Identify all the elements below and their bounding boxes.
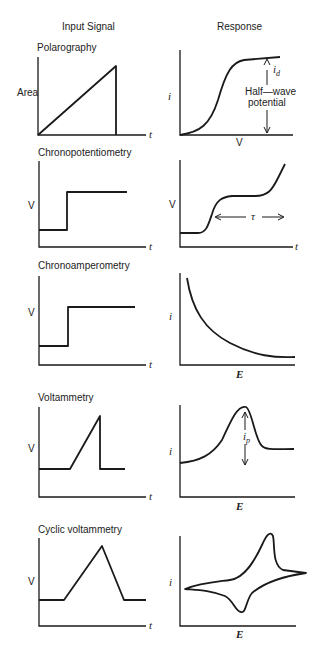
input-plot: V t bbox=[28, 276, 153, 370]
response-plot: ip i E bbox=[169, 405, 295, 512]
x-label: V bbox=[236, 137, 243, 148]
input-plot: V t bbox=[28, 538, 153, 631]
axes bbox=[180, 536, 296, 626]
axes bbox=[180, 160, 293, 247]
y-label: V bbox=[28, 443, 35, 454]
technique-title: Cyclic voltammetry bbox=[38, 524, 122, 535]
tau-label: τ bbox=[251, 210, 256, 222]
response-plot: id Half—wave potential i V bbox=[168, 50, 297, 148]
y-label: i bbox=[168, 90, 171, 102]
response-curve bbox=[180, 164, 285, 233]
half-wave-label-line2: potential bbox=[248, 97, 286, 108]
axes bbox=[39, 276, 146, 365]
row-polarography: Polarography Area t id Half—wave potenti… bbox=[17, 42, 297, 148]
technique-title: Polarography bbox=[37, 42, 96, 53]
response-curve bbox=[187, 278, 295, 357]
response-curve bbox=[185, 534, 306, 613]
input-plot: V t bbox=[28, 161, 153, 252]
x-label: t bbox=[149, 240, 153, 252]
x-label: E bbox=[235, 368, 243, 380]
response-plot: i E bbox=[169, 534, 306, 640]
axes bbox=[39, 161, 146, 247]
header-response: Response bbox=[217, 21, 262, 32]
y-label: i bbox=[169, 576, 172, 588]
arrow-head-up bbox=[264, 59, 270, 65]
id-label: id bbox=[273, 63, 281, 78]
row-chronoamperometry: Chronoamperometry V t i E bbox=[28, 260, 295, 380]
x-label: t bbox=[149, 128, 153, 140]
row-cyclic-voltammetry: Cyclic voltammetry V t i E bbox=[28, 524, 306, 640]
input-plot: V t bbox=[28, 407, 153, 502]
signal-curve bbox=[39, 416, 125, 469]
row-voltammetry: Voltammetry V t ip i E bbox=[28, 392, 295, 512]
axes bbox=[39, 407, 146, 497]
technique-title: Voltammetry bbox=[38, 392, 94, 403]
signal-curve bbox=[39, 546, 146, 600]
axes bbox=[180, 273, 295, 365]
y-label: V bbox=[28, 307, 35, 318]
technique-title: Chronoamperometry bbox=[38, 260, 130, 271]
x-label: t bbox=[295, 240, 299, 252]
y-label: V bbox=[28, 576, 35, 587]
y-label: i bbox=[169, 310, 172, 322]
technique-title: Chronopotentiometry bbox=[38, 147, 131, 158]
signal-curve bbox=[39, 307, 135, 346]
header-input-signal: Input Signal bbox=[62, 21, 115, 32]
x-label: E bbox=[235, 500, 243, 512]
x-label: E bbox=[235, 628, 243, 640]
input-plot: Area t bbox=[17, 57, 153, 140]
row-chronopotentiometry: Chronopotentiometry V t τ V t bbox=[28, 147, 299, 252]
y-label: V bbox=[28, 200, 35, 211]
signal-curve bbox=[38, 66, 116, 135]
y-label: V bbox=[169, 199, 176, 210]
x-label: t bbox=[149, 358, 153, 370]
electroanalytical-techniques-diagram: Input Signal Response Polarography Area … bbox=[0, 0, 323, 660]
y-label: Area bbox=[17, 87, 39, 98]
half-wave-label-line1: Half—wave bbox=[245, 86, 297, 97]
axes bbox=[180, 405, 295, 497]
x-label: t bbox=[149, 490, 153, 502]
x-label: t bbox=[149, 619, 153, 631]
axes bbox=[38, 57, 146, 135]
response-plot: i E bbox=[169, 273, 295, 380]
response-curve bbox=[180, 407, 294, 463]
y-label: i bbox=[169, 445, 172, 457]
signal-curve bbox=[39, 192, 127, 230]
response-plot: τ V t bbox=[169, 160, 299, 252]
axes bbox=[39, 538, 146, 626]
